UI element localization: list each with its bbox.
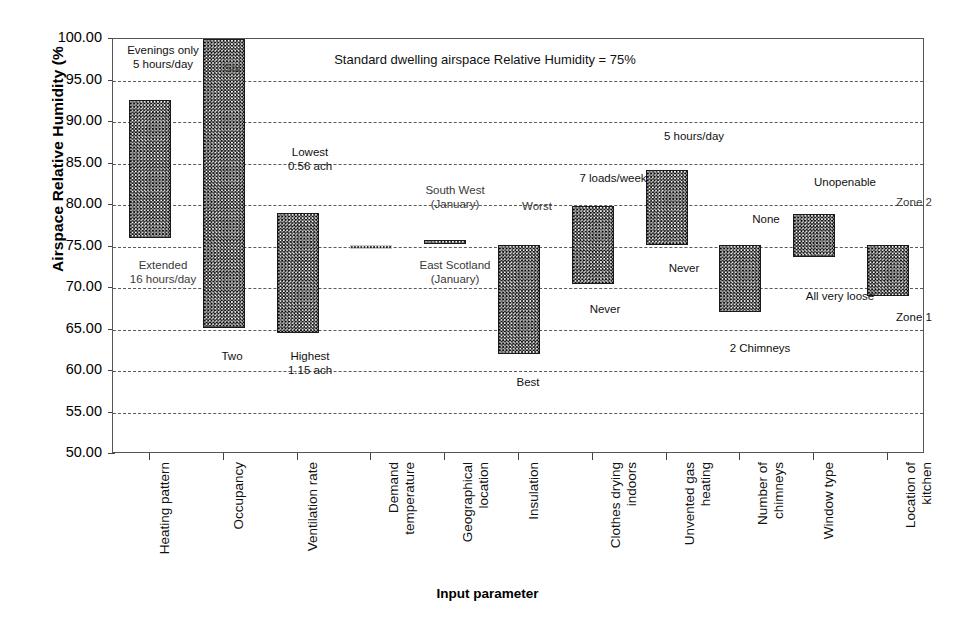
plot-area (112, 38, 924, 453)
annotation-clothes-low: Never (545, 303, 665, 317)
y-tick-label: 100.00 (30, 30, 102, 44)
annotation-chimneys-low: 2 Chimneys (700, 342, 820, 356)
annotation-kitchen-low: Zone 1 (854, 311, 974, 325)
x-tick-mark (666, 453, 667, 460)
x-axis-title: Input parameter (0, 586, 975, 601)
bar-number-of-chimneys (719, 245, 761, 312)
annotation-chimneys-high: None (706, 213, 826, 227)
y-tick-label: 60.00 (30, 362, 102, 376)
y-tick-mark (108, 453, 115, 454)
y-tick-label: 70.00 (30, 279, 102, 293)
y-tick-label: 90.00 (30, 113, 102, 127)
y-tick-label: 80.00 (30, 196, 102, 210)
chart-title: Standard dwelling airspace Relative Humi… (275, 52, 695, 67)
y-tick-label: 55.00 (30, 404, 102, 418)
annotation-ventilation-high: Lowest 0.56 ach (250, 146, 370, 173)
gridline (113, 413, 923, 414)
chart-root: Airspace Relative Humidity (% 100.0095.0… (0, 0, 975, 625)
y-tick-label: 65.00 (30, 321, 102, 335)
y-tick-label: 75.00 (30, 238, 102, 252)
bar-location-of-kitchen (867, 245, 909, 296)
bar-ventilation-rate (277, 213, 319, 333)
x-tick-mark (444, 453, 445, 460)
annotation-heating-low: Extended 16 hours/day (103, 259, 223, 286)
x-tick-mark (223, 453, 224, 460)
x-tick-mark (592, 453, 593, 460)
x-tick-mark (739, 453, 740, 460)
bar-demand-temperature (350, 245, 392, 249)
annotation-unvented-low: Never (624, 262, 744, 276)
annotation-insulation-high: Worst (477, 200, 597, 214)
y-tick-label: 85.00 (30, 155, 102, 169)
x-tick-mark (297, 453, 298, 460)
y-tick-label: 95.00 (30, 72, 102, 86)
annotation-unvented-high: 5 hours/day (634, 130, 754, 144)
annotation-window-high: Unopenable (785, 176, 905, 190)
x-tick-mark (370, 453, 371, 460)
gridline (113, 371, 923, 372)
annotation-ventilation-low: Highest 1.15 ach (250, 350, 370, 377)
bar-heating-pattern (129, 100, 171, 239)
y-tick-label: 50.00 (30, 445, 102, 459)
annotation-clothes-high: 7 loads/week (553, 172, 673, 186)
bar-clothes-drying-indoors (572, 206, 614, 284)
annotation-kitchen-high: Zone 2 (854, 196, 974, 210)
x-tick-mark (149, 453, 150, 460)
annotation-occupancy-high: Six (172, 62, 292, 76)
annotation-insulation-low: Best (468, 376, 588, 390)
x-tick-mark (887, 453, 888, 460)
annotation-window-low: All very loose (780, 290, 900, 304)
x-tick-mark (518, 453, 519, 460)
annotation-geographical-low: East Scotland (January) (395, 259, 515, 286)
x-tick-mark (813, 453, 814, 460)
bar-geographical-location (424, 240, 466, 244)
